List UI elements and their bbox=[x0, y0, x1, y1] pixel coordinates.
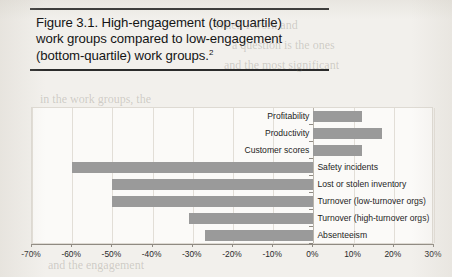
category-tick bbox=[309, 141, 313, 142]
axis-tick-label: -20% bbox=[222, 249, 242, 259]
caption-footnote-marker: 2 bbox=[209, 47, 213, 56]
axis-tick-label: 0% bbox=[306, 249, 318, 259]
bar[interactable] bbox=[313, 145, 361, 156]
bar-row: Lost or stolen inventory bbox=[32, 177, 432, 193]
bar-row: Absenteeism bbox=[32, 228, 432, 244]
bar[interactable] bbox=[205, 230, 314, 241]
figure-caption-block: Figure 3.1. High-engagement (top-quartil… bbox=[30, 8, 330, 71]
gridline bbox=[434, 108, 435, 243]
bar-row: Productivity bbox=[32, 126, 432, 142]
bar[interactable] bbox=[313, 128, 381, 139]
bar-row: Safety incidents bbox=[32, 160, 432, 176]
axis-tick bbox=[433, 244, 434, 247]
axis-tick-label: -40% bbox=[142, 249, 162, 259]
axis-tick-label: 20% bbox=[384, 249, 401, 259]
bar-label: Turnover (high-turnover orgs) bbox=[313, 213, 429, 224]
axis-tick-label: -50% bbox=[102, 249, 122, 259]
bar-row: Turnover (low-turnover orgs) bbox=[32, 194, 432, 210]
axis-tick bbox=[393, 244, 394, 247]
bar[interactable] bbox=[112, 179, 313, 190]
bar-label: Absenteeism bbox=[313, 230, 367, 241]
ghost-text-line: in the work groups, the bbox=[40, 92, 151, 107]
category-tick bbox=[309, 226, 313, 227]
bar-label: Safety incidents bbox=[313, 162, 378, 173]
axis-tick bbox=[192, 244, 193, 247]
bar[interactable] bbox=[313, 111, 361, 122]
category-tick bbox=[309, 124, 313, 125]
chart-x-axis: -70%-60%-50%-40%-30%-20%-10%0%10%20%30% bbox=[31, 244, 433, 266]
caption-rule-bottom bbox=[30, 69, 329, 71]
figure-caption-text: Figure 3.1. High-engagement (top-quartil… bbox=[30, 10, 330, 67]
axis-tick bbox=[353, 244, 354, 247]
category-tick bbox=[309, 175, 313, 176]
bar-label: Turnover (low-turnover orgs) bbox=[313, 196, 426, 207]
bar-row: Customer scores bbox=[32, 143, 432, 159]
axis-tick-label: 30% bbox=[425, 249, 442, 259]
axis-tick-label: 10% bbox=[344, 249, 361, 259]
axis-tick-label: -60% bbox=[61, 249, 81, 259]
category-tick bbox=[309, 209, 313, 210]
bar-row: Turnover (high-turnover orgs) bbox=[32, 211, 432, 227]
caption-line-1: Figure 3.1. High-engagement (top-quartil… bbox=[36, 15, 282, 30]
caption-line-2: work groups compared to low-engagement bbox=[36, 31, 282, 46]
bar-row: Profitability bbox=[32, 109, 432, 125]
bar-chart: ProfitabilityProductivityCustomer scores… bbox=[31, 107, 433, 244]
category-tick bbox=[309, 192, 313, 193]
category-tick bbox=[309, 158, 313, 159]
bar-label: Lost or stolen inventory bbox=[313, 179, 406, 190]
caption-line-3: (bottom-quartile) work groups. bbox=[36, 48, 209, 63]
bar[interactable] bbox=[112, 196, 313, 207]
axis-tick bbox=[71, 244, 72, 247]
axis-tick bbox=[152, 244, 153, 247]
axis-tick bbox=[312, 244, 313, 247]
axis-tick bbox=[111, 244, 112, 247]
chart-bars-container: ProfitabilityProductivityCustomer scores… bbox=[32, 108, 432, 243]
axis-tick bbox=[31, 244, 32, 247]
bar-label: Profitability bbox=[267, 111, 313, 122]
axis-tick bbox=[272, 244, 273, 247]
bar[interactable] bbox=[72, 162, 313, 173]
axis-tick bbox=[232, 244, 233, 247]
bar-label: Customer scores bbox=[244, 145, 313, 156]
bar[interactable] bbox=[189, 213, 314, 224]
bar-label: Productivity bbox=[265, 128, 313, 139]
axis-tick-label: -10% bbox=[262, 249, 282, 259]
axis-tick-label: -30% bbox=[182, 249, 202, 259]
axis-tick-label: -70% bbox=[21, 249, 41, 259]
